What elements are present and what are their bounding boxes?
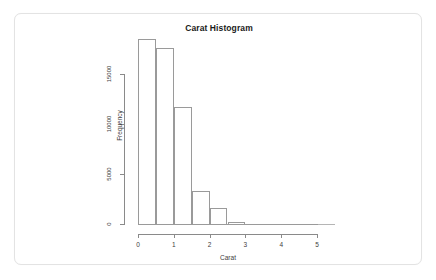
y-tick-label-0: 0	[106, 216, 112, 232]
x-tick-label-2: 2	[200, 241, 220, 248]
y-tick-5000	[120, 174, 124, 175]
y-tick-0	[120, 224, 124, 225]
hist-bar-4	[210, 208, 228, 224]
x-tick-label-1: 1	[164, 241, 184, 248]
x-tick-0	[138, 234, 139, 238]
y-axis-title: Frequency	[116, 96, 123, 156]
y-tick-label-10000: 10000	[106, 114, 112, 134]
bar-baseline	[138, 224, 318, 225]
x-tick-label-4: 4	[271, 241, 291, 248]
hist-bar-1	[156, 48, 174, 224]
y-axis-line	[124, 74, 125, 225]
hist-bar-10	[317, 224, 335, 225]
plot-area: 0 5000 10000 15000 Frequency 0 1 2 3 4 5…	[15, 14, 423, 266]
x-tick-1	[174, 234, 175, 238]
x-tick-5	[317, 234, 318, 238]
x-tick-2	[210, 234, 211, 238]
hist-bar-3	[192, 191, 210, 224]
x-tick-3	[245, 234, 246, 238]
x-tick-label-0: 0	[128, 241, 148, 248]
hist-bar-2	[174, 107, 192, 224]
plot-card: Carat Histogram 0 5000 10000	[14, 13, 422, 265]
screenshot-root: Carat Histogram 0 5000 10000	[0, 0, 436, 280]
y-tick-label-5000: 5000	[106, 166, 112, 182]
y-tick-15000	[120, 74, 124, 75]
x-tick-label-3: 3	[235, 241, 255, 248]
x-axis-title: Carat	[138, 254, 318, 261]
x-axis-line	[138, 234, 318, 235]
hist-bar-0	[138, 39, 156, 224]
x-tick-label-5: 5	[307, 241, 327, 248]
x-tick-4	[281, 234, 282, 238]
y-tick-label-15000: 15000	[106, 64, 112, 84]
